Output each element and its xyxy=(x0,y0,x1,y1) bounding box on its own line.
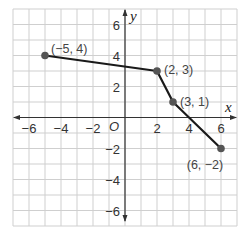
data-point xyxy=(169,98,177,106)
y-axis-up-arrow-icon xyxy=(123,9,128,16)
y-tick-label: 6 xyxy=(113,18,120,33)
x-tick-label: 2 xyxy=(153,121,160,136)
coordinate-plane: −6−4−2246642−2−4−6 x y O (−5, 4)(2, 3)(3… xyxy=(0,0,247,237)
data-point xyxy=(41,52,49,60)
x-tick-label: 6 xyxy=(217,121,224,136)
x-tick-label: −6 xyxy=(22,121,37,136)
point-label: (−5, 4) xyxy=(51,42,87,56)
x-tick-label: −2 xyxy=(86,121,101,136)
data-series: (−5, 4)(2, 3)(3, 1)(6, −2) xyxy=(41,42,225,172)
axes xyxy=(13,9,237,222)
origin-label: O xyxy=(109,119,119,134)
data-point xyxy=(217,145,225,153)
x-axis-right-arrow-icon xyxy=(230,115,237,120)
data-point xyxy=(153,67,161,75)
x-tick-label: 4 xyxy=(185,121,192,136)
y-tick-label: −2 xyxy=(105,142,120,157)
y-axis-down-arrow-icon xyxy=(123,215,128,222)
x-axis-left-arrow-icon xyxy=(13,115,20,120)
point-label: (2, 3) xyxy=(164,63,193,77)
point-label: (3, 1) xyxy=(180,95,209,109)
y-tick-label: −6 xyxy=(105,204,120,219)
y-tick-label: 2 xyxy=(113,80,120,95)
x-axis-label: x xyxy=(224,99,232,115)
y-axis-label: y xyxy=(128,8,137,24)
y-tick-label: −4 xyxy=(105,173,120,188)
x-tick-label: −4 xyxy=(54,121,69,136)
point-label: (6, −2) xyxy=(187,158,223,172)
y-tick-label: 4 xyxy=(113,49,120,64)
